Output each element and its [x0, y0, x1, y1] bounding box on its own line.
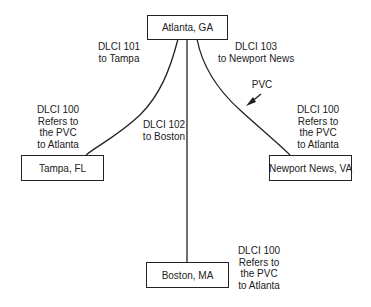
dlci-103-label: DLCI 103 to Newport News	[218, 41, 294, 64]
connection-lines	[0, 0, 371, 307]
node-newport-news: Newport News, VA	[269, 155, 352, 181]
node-boston-label: Boston, MA	[162, 270, 214, 281]
node-tampa: Tampa, FL	[21, 155, 104, 181]
dlci-101-label: DLCI 101 to Tampa	[94, 41, 144, 64]
node-boston: Boston, MA	[146, 262, 229, 288]
node-tampa-label: Tampa, FL	[39, 163, 86, 174]
newport-dlci-100-label: DLCI 100 Refers to the PVC to Atlanta	[293, 104, 343, 150]
dlci-102-label: DLCI 102 to Boston	[142, 119, 186, 142]
node-atlanta-label: Atlanta, GA	[162, 22, 213, 33]
node-newport-news-label: Newport News, VA	[269, 163, 352, 174]
pvc-arrow-icon	[246, 94, 261, 106]
node-atlanta: Atlanta, GA	[147, 15, 228, 40]
pvc-label: PVC	[250, 79, 274, 91]
boston-dlci-100-label: DLCI 100 Refers to the PVC to Atlanta	[234, 245, 284, 291]
tampa-dlci-100-label: DLCI 100 Refers to the PVC to Atlanta	[33, 104, 83, 150]
